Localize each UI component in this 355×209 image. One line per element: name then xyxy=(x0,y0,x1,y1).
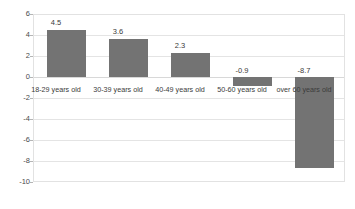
bar-chart: 6 4 2 0 -2 -4 -6 -8 -10 4.5 3.6 2.3 -0. xyxy=(0,0,355,209)
value-label-50-60: -0.9 xyxy=(212,66,272,75)
bar-18-29-years-old[interactable] xyxy=(47,30,86,77)
y-tick-mark-neg10 xyxy=(30,182,33,183)
value-label-30-39: 3.6 xyxy=(88,27,148,36)
bar-30-39-years-old[interactable] xyxy=(109,39,148,77)
y-axis-labels: 6 4 2 0 -2 -4 -6 -8 -10 xyxy=(0,0,30,209)
bar-40-49-years-old[interactable] xyxy=(171,53,210,77)
y-tick-label-neg2: -2 xyxy=(4,94,30,102)
y-tick-label-2: 2 xyxy=(4,52,30,60)
y-tick-label-neg6: -6 xyxy=(4,136,30,144)
value-label-over-60: -8.7 xyxy=(274,66,334,75)
value-label-18-29: 4.5 xyxy=(26,18,86,27)
y-tick-label-neg4: -4 xyxy=(4,115,30,123)
category-label-over-60: over 60 years old xyxy=(264,85,344,94)
y-tick-label-0: 0 xyxy=(4,73,30,81)
y-tick-label-neg10: -10 xyxy=(4,178,30,186)
y-tick-label-neg8: -8 xyxy=(4,157,30,165)
y-tick-label-6: 6 xyxy=(4,10,30,18)
plot-area xyxy=(33,14,345,182)
value-label-40-49: 2.3 xyxy=(150,41,210,50)
y-tick-label-4: 4 xyxy=(4,31,30,39)
